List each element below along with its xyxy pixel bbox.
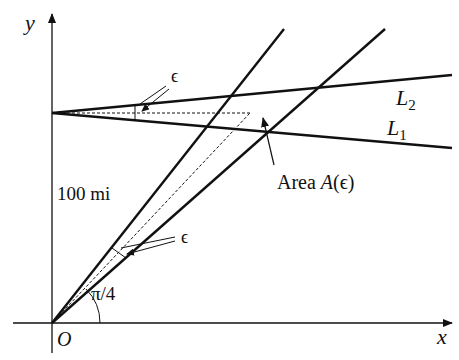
epsilon-marker-top: ϵ	[135, 66, 178, 121]
y-axis-label: y	[23, 10, 35, 35]
angle-label: π/4	[91, 283, 116, 304]
epsilon-label-top: ϵ	[171, 66, 178, 86]
dashed-diagonal	[52, 113, 250, 323]
line-l2	[52, 75, 452, 113]
diagram: ϵ ϵ y x O 100 mi π/4 L2 L1 Area A(ϵ)	[0, 0, 459, 360]
line-l1-label: L1	[386, 115, 407, 143]
distance-label: 100 mi	[57, 183, 110, 204]
epsilon-label-bottom: ϵ	[181, 227, 188, 247]
x-axis-label: x	[436, 324, 447, 349]
line-origin-upper	[52, 29, 284, 323]
line-l2-label: L2	[395, 85, 416, 113]
origin-label: O	[57, 328, 71, 350]
area-label: Area A(ϵ)	[277, 171, 355, 194]
area-arrow	[263, 118, 274, 165]
